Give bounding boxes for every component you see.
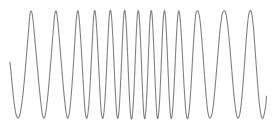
waveform-chart [0, 0, 272, 129]
waveform-plot-area [0, 0, 272, 129]
